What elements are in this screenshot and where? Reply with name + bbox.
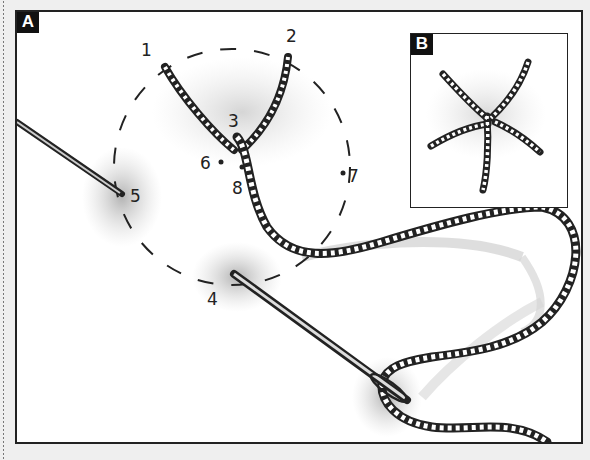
point-8-dot — [240, 165, 245, 170]
label-8: 8 — [232, 178, 243, 198]
label-4: 4 — [207, 289, 218, 309]
point-6-dot — [219, 160, 224, 165]
panel-b-badge: B — [411, 34, 433, 55]
label-2: 2 — [286, 26, 297, 46]
panel-b-inset: B — [410, 33, 568, 208]
panel-a-badge: A — [17, 12, 39, 33]
label-7: 7 — [348, 166, 359, 186]
label-5: 5 — [130, 186, 141, 206]
label-1: 1 — [141, 40, 152, 60]
label-3: 3 — [228, 111, 239, 131]
finished-star-stitch — [411, 34, 569, 209]
label-6: 6 — [200, 153, 211, 173]
panel-a: 1 2 3 4 5 6 7 8 A B — [15, 10, 583, 444]
needle-lower — [234, 274, 410, 406]
point-7-dot — [341, 171, 346, 176]
page-edge-perforation — [2, 0, 5, 460]
